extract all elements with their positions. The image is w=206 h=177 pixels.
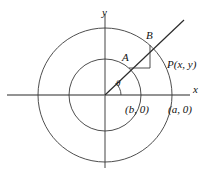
x-axis-label: x (193, 84, 198, 95)
point-b-label: B (146, 30, 153, 41)
geometry-figure: y x A B P(x, y) θ (b, 0) (a, 0) (0, 0, 206, 177)
point-p-label: P(x, y) (167, 59, 196, 70)
inner-radius-coordinate-label: (b, 0) (125, 104, 149, 115)
outer-radius-coordinate-label: (a, 0) (168, 104, 192, 115)
figure-canvas (0, 0, 206, 177)
y-axis-label: y (102, 7, 107, 18)
point-a-label: A (122, 52, 129, 63)
theta-angle-label: θ (116, 79, 120, 88)
